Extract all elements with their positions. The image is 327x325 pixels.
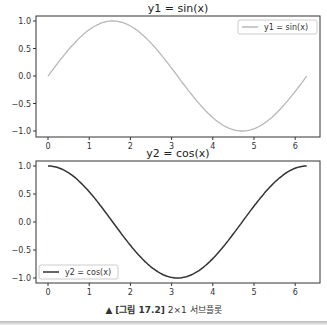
line-series	[48, 166, 307, 278]
y-tick-label: −1.0	[12, 274, 31, 283]
x-tick-label: 6	[293, 142, 298, 151]
x-tick-label: 4	[210, 142, 215, 151]
subplot-title: y2 = cos(x)	[146, 147, 209, 160]
subplots-figure: y1 = sin(x)01234561.00.50.0−0.5−1.0y1 = …	[0, 0, 327, 325]
x-tick-label: 1	[87, 142, 92, 151]
legend-label: y2 = cos(x)	[65, 268, 111, 277]
subplot-title: y1 = sin(x)	[148, 2, 209, 15]
x-tick-label: 2	[128, 142, 133, 151]
y-tick-label: 0.0	[18, 218, 31, 227]
y-tick-label: 0.0	[18, 72, 31, 81]
y-tick-label: 1.0	[18, 162, 31, 171]
x-tick-label: 4	[210, 288, 215, 297]
y-tick-label: −1.0	[12, 127, 31, 136]
caption-text: 2×1 서브플롯	[165, 305, 222, 315]
line-series	[48, 21, 307, 131]
x-tick-label: 6	[293, 288, 298, 297]
y-tick-label: 0.5	[18, 45, 31, 54]
y-tick-label: −0.5	[12, 100, 31, 109]
x-tick-label: 5	[251, 288, 256, 297]
caption-label: [그림 17.2]	[115, 305, 165, 315]
x-tick-label: 5	[251, 142, 256, 151]
bottom-divider	[0, 321, 327, 325]
x-tick-label: 0	[45, 288, 50, 297]
x-tick-label: 2	[128, 288, 133, 297]
caption-marker-icon: ▲	[105, 305, 112, 315]
legend-label: y1 = sin(x)	[264, 23, 308, 32]
y-tick-label: 1.0	[18, 17, 31, 26]
y-tick-label: 0.5	[18, 190, 31, 199]
x-tick-label: 0	[45, 142, 50, 151]
figure-caption: ▲ [그림 17.2] 2×1 서브플롯	[0, 303, 327, 316]
x-tick-label: 3	[169, 288, 174, 297]
x-tick-label: 1	[87, 288, 92, 297]
y-tick-label: −0.5	[12, 246, 31, 255]
